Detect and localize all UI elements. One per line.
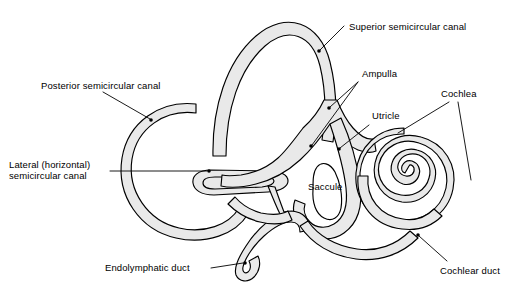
leader-dot-cochlear-duct bbox=[416, 233, 420, 237]
label-superior-semicircular-canal: Superior semicircular canal bbox=[349, 21, 466, 33]
leader-posterior-semicircular-canal bbox=[103, 92, 150, 119]
leader-cochlear-duct bbox=[419, 236, 447, 261]
leader-dot-superior-semicircular-canal bbox=[317, 49, 321, 53]
label-endolymphatic-duct: Endolymphatic duct bbox=[105, 262, 190, 274]
endolymphatic-duct-shape bbox=[235, 186, 310, 281]
leader-dot-lateral-semicircular-canal bbox=[207, 169, 211, 173]
inner-ear-diagram: Superior semicircular canal Posterior se… bbox=[0, 0, 516, 290]
label-lateral-semicircular-canal-line1: Lateral (horizontal) bbox=[9, 159, 90, 171]
label-cochlear-duct: Cochlear duct bbox=[440, 265, 500, 277]
leader-cochlea-right bbox=[458, 102, 471, 180]
label-lateral-semicircular-canal-line2: semicircular canal bbox=[9, 170, 87, 182]
leader-superior-semicircular-canal bbox=[320, 26, 344, 50]
label-cochlea: Cochlea bbox=[441, 88, 477, 100]
label-ampulla: Ampulla bbox=[362, 68, 397, 80]
leader-cochlea-left bbox=[398, 102, 449, 133]
label-posterior-semicircular-canal: Posterior semicircular canal bbox=[41, 80, 160, 92]
leader-dot-ampulla-superior bbox=[327, 106, 331, 110]
label-saccule: Saccule bbox=[308, 181, 343, 193]
leader-dot-posterior-semicircular-canal bbox=[149, 118, 153, 122]
leader-dot-ampulla-lateral bbox=[309, 144, 313, 148]
leader-dot-utricle bbox=[337, 147, 341, 151]
label-utricle: Utricle bbox=[372, 110, 400, 122]
leader-dot-endolymphatic-duct bbox=[243, 261, 247, 265]
anatomy-illustration bbox=[0, 0, 516, 290]
